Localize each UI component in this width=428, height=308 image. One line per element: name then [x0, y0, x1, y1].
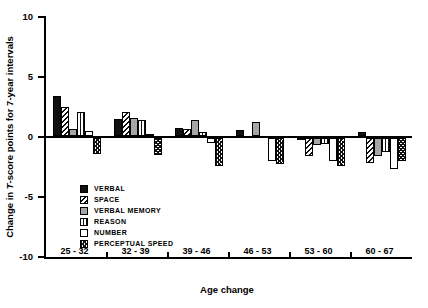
- bar-number: [85, 131, 93, 136]
- legend-item: SPACE: [80, 195, 173, 204]
- y-axis-tick: [38, 256, 46, 258]
- figure: Change in T-score points for 7-year inte…: [0, 0, 428, 308]
- bar-verbal-memory: [374, 138, 382, 156]
- y-axis-tick: [38, 136, 46, 138]
- bar-space: [183, 129, 191, 136]
- bar-number: [329, 138, 337, 161]
- x-axis-title: Age change: [44, 284, 410, 295]
- bar-verbal-memory: [130, 118, 138, 136]
- bar-perceptual-speed: [154, 138, 162, 155]
- bar-verbal-memory: [252, 122, 260, 136]
- legend-item: NUMBER: [80, 228, 173, 237]
- y-axis-title-italic-t: T: [4, 183, 15, 189]
- bar-reason: [77, 112, 85, 136]
- bar-reason: [382, 138, 390, 152]
- legend-label: NUMBER: [94, 229, 127, 236]
- bar-number: [390, 138, 398, 169]
- bar-number: [146, 134, 154, 136]
- bar-space: [61, 107, 69, 136]
- plot-area: VERBALSPACEVERBAL MEMORYREASONNUMBERPERC…: [44, 17, 412, 259]
- bar-perceptual-speed: [93, 138, 101, 154]
- legend-swatch-reason: [80, 218, 88, 226]
- x-axis-category-label: 53 - 60: [288, 246, 349, 256]
- y-axis-title-post: -score points for 7-year intervals: [4, 36, 15, 183]
- legend-swatch-verbal-memory: [80, 207, 88, 215]
- bar-verbal: [236, 130, 244, 136]
- legend: VERBALSPACEVERBAL MEMORYREASONNUMBERPERC…: [80, 184, 173, 250]
- bar-verbal: [114, 119, 122, 136]
- bar-reason: [321, 138, 329, 144]
- bar-space: [122, 112, 130, 136]
- bar-verbal: [53, 96, 61, 136]
- bar-space: [305, 138, 313, 156]
- x-axis-category-label: 60 - 67: [349, 246, 410, 256]
- bar-perceptual-speed: [398, 138, 406, 161]
- x-axis-category-label: 46 - 53: [227, 246, 288, 256]
- legend-label: VERBAL: [94, 185, 125, 192]
- legend-label: REASON: [94, 218, 126, 225]
- y-axis-tick-label: -10: [3, 251, 33, 262]
- bar-verbal: [175, 128, 183, 136]
- y-axis-tick-label: 0: [3, 131, 33, 142]
- y-axis-tick-label: -5: [3, 191, 33, 202]
- y-axis-tick: [38, 76, 46, 78]
- bar-reason: [138, 120, 146, 136]
- bar-verbal: [297, 138, 305, 140]
- y-axis-tick-label: 10: [3, 11, 33, 22]
- bar-number: [268, 138, 276, 161]
- legend-label: VERBAL MEMORY: [94, 207, 161, 214]
- y-axis-tick: [38, 16, 46, 18]
- bar-verbal: [358, 132, 366, 136]
- legend-label: SPACE: [94, 196, 120, 203]
- legend-swatch-verbal: [80, 185, 88, 193]
- bar-perceptual-speed: [215, 138, 223, 166]
- bar-verbal-memory: [191, 120, 199, 136]
- bar-verbal-memory: [69, 129, 77, 136]
- legend-item: VERBAL: [80, 184, 173, 193]
- legend-swatch-space: [80, 196, 88, 204]
- bar-number: [207, 138, 215, 143]
- bar-perceptual-speed: [337, 138, 345, 166]
- y-axis-tick: [38, 196, 46, 198]
- x-axis-category-label: 39 - 46: [166, 246, 227, 256]
- bar-space: [366, 138, 374, 163]
- x-axis-category-label: 32 - 39: [105, 246, 166, 256]
- bar-perceptual-speed: [276, 138, 284, 164]
- bar-reason: [199, 132, 207, 136]
- legend-item: REASON: [80, 217, 173, 226]
- legend-swatch-number: [80, 229, 88, 237]
- x-axis-category-label: 25 - 32: [44, 246, 105, 256]
- y-axis-tick-label: 5: [3, 71, 33, 82]
- legend-item: VERBAL MEMORY: [80, 206, 173, 215]
- bar-verbal-memory: [313, 138, 321, 145]
